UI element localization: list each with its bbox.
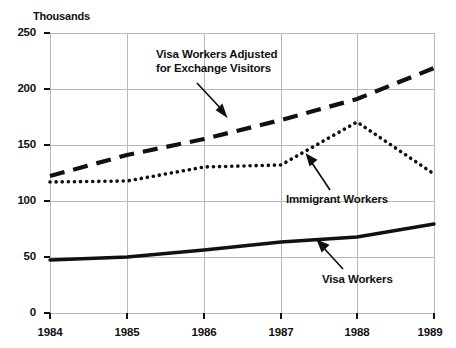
y-tick-label-50: 50 [2, 250, 36, 262]
x-tick-label-1987: 1987 [255, 326, 307, 338]
chart-container: Thousands 250 200 150 100 50 0 1984 1985… [0, 0, 456, 348]
annotation-immigrant-workers: Immigrant Workers [286, 192, 388, 206]
y-axis-unit-label: Thousands [33, 10, 90, 22]
arrow-visa-workers [318, 241, 343, 269]
annotation-line-1: Visa Workers Adjusted [156, 47, 277, 61]
vertical-gridlines [50, 33, 434, 313]
x-axis-ticks [50, 313, 434, 319]
y-tick-label-100: 100 [2, 194, 36, 206]
y-tick-label-150: 150 [2, 138, 36, 150]
x-tick-label-1985: 1985 [101, 326, 153, 338]
annotation-line-2: for Exchange Visitors [156, 61, 277, 75]
annotation-visa-workers: Visa Workers [322, 272, 393, 286]
annotation-visa-workers-adjusted: Visa Workers Adjusted for Exchange Visit… [156, 47, 277, 75]
x-tick-label-1989: 1989 [404, 326, 456, 338]
series-line-visa-workers-adjusted [50, 68, 434, 176]
x-tick-label-1984: 1984 [24, 326, 76, 338]
arrow-immigrant-workers [307, 155, 330, 190]
horizontal-gridlines [50, 33, 434, 313]
y-tick-label-200: 200 [2, 82, 36, 94]
arrow-visa-workers-adjusted [197, 83, 226, 116]
x-tick-label-1986: 1986 [178, 326, 230, 338]
y-axis-ticks [44, 33, 50, 313]
series-line-visa-workers [50, 224, 434, 260]
y-tick-label-250: 250 [2, 26, 36, 38]
x-tick-label-1988: 1988 [331, 326, 383, 338]
y-tick-label-0: 0 [2, 306, 36, 318]
